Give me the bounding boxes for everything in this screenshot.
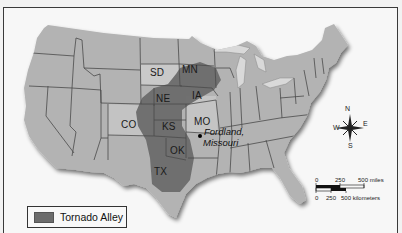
state-label-ks: KS bbox=[162, 122, 176, 132]
state-label-ne: NE bbox=[156, 94, 170, 104]
compass-e: E bbox=[363, 120, 368, 127]
scale-miles-500: 500 miles bbox=[358, 177, 384, 183]
state-label-ok: OK bbox=[170, 146, 185, 156]
scale-km-500: 500 kilometers bbox=[341, 195, 380, 201]
compass-n: N bbox=[345, 105, 350, 112]
state-label-co: CO bbox=[121, 120, 136, 130]
map-legend: Tornado Alley bbox=[27, 206, 127, 228]
fordland-marker bbox=[198, 134, 202, 138]
scale-km-0: 0 bbox=[315, 195, 318, 201]
map-frame: SD MN NE IA CO KS MO OK TX Fordland, Mis… bbox=[3, 7, 398, 233]
state-label-mn: MN bbox=[182, 65, 198, 75]
compass-rose bbox=[336, 114, 364, 142]
state-label-ia: IA bbox=[192, 91, 202, 101]
state-label-tx: TX bbox=[154, 167, 167, 177]
legend-swatch-tornado-alley bbox=[34, 212, 54, 223]
city-label-fordland: Fordland, bbox=[204, 127, 244, 137]
city-label-missouri: Missouri bbox=[203, 138, 238, 148]
compass-s: S bbox=[348, 142, 353, 149]
state-label-sd: SD bbox=[150, 68, 164, 78]
legend-label: Tornado Alley bbox=[60, 211, 123, 223]
scale-km-250: 250 bbox=[326, 195, 336, 201]
compass-w: W bbox=[333, 124, 340, 131]
scale-miles-0: 0 bbox=[315, 177, 318, 183]
scale-miles-250: 250 bbox=[335, 177, 345, 183]
scale-bar bbox=[316, 183, 364, 193]
